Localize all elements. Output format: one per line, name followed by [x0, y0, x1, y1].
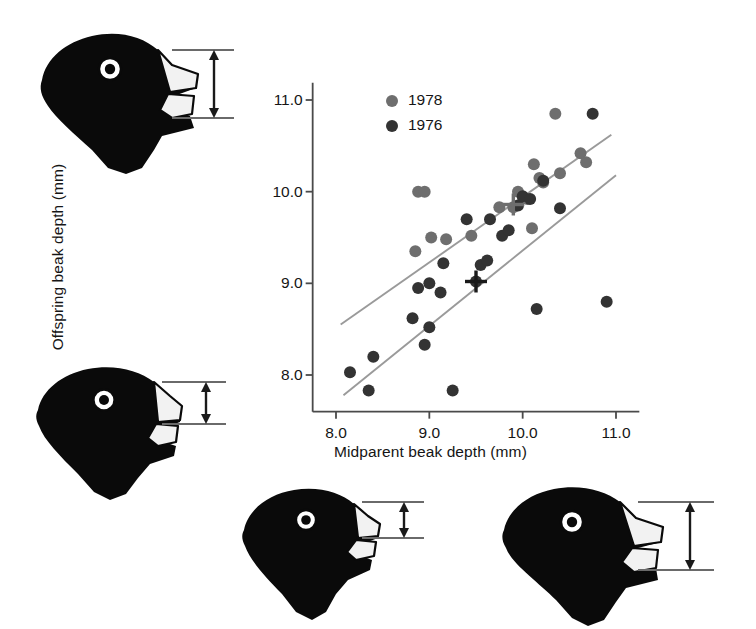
data-point-1976: [423, 321, 435, 333]
y-axis-tick-label: 11.0: [247, 91, 303, 109]
data-point-1976: [423, 277, 435, 289]
1978-regression: [341, 135, 612, 325]
data-point-1976: [537, 175, 549, 187]
y-axis-title: Offspring beak depth (mm): [49, 137, 67, 377]
data-point-1976: [484, 213, 496, 225]
data-point-1976: [412, 282, 424, 294]
data-point-1976: [407, 312, 419, 324]
data-point-1976: [503, 224, 515, 236]
data-point-1976: [461, 213, 473, 225]
legend-label-1976: 1976: [408, 116, 442, 134]
data-point-1976: [419, 339, 431, 351]
x-axis-tick-label: 11.0: [601, 424, 630, 442]
legend-marker-1978: [386, 95, 398, 107]
data-point-1976: [481, 254, 493, 266]
data-point-1978: [580, 156, 592, 168]
data-point-1976: [601, 296, 613, 308]
data-point-1978: [419, 186, 431, 198]
legend-marker-1976: [386, 120, 398, 132]
x-axis-tick-label: 8.0: [325, 424, 347, 442]
1976-mean: [465, 271, 487, 293]
data-point-1976: [524, 193, 536, 205]
data-point-1976: [367, 351, 379, 363]
data-point-1976: [437, 257, 449, 269]
data-point-1978: [549, 108, 561, 120]
figure-root: Midparent beak depth (mm) Offspring beak…: [0, 0, 756, 629]
data-point-1976: [435, 287, 447, 299]
y-axis-tick-label: 8.0: [247, 366, 303, 384]
legend-label-1978: 1978: [408, 91, 442, 109]
data-point-1978: [440, 233, 452, 245]
data-point-1978: [526, 222, 538, 234]
data-point-1976: [531, 303, 543, 315]
data-point-1978: [409, 245, 421, 257]
data-point-1978: [465, 230, 477, 242]
y-axis-tick-label: 10.0: [247, 183, 303, 201]
data-point-1976: [363, 385, 375, 397]
x-axis-tick-label: 10.0: [508, 424, 538, 442]
y-axis-tick-label: 9.0: [247, 274, 303, 292]
data-point-1976: [344, 366, 356, 378]
data-point-1978: [528, 158, 540, 170]
data-point-1976: [554, 202, 566, 214]
data-point-1976: [447, 385, 459, 397]
x-axis-title: Midparent beak depth (mm): [334, 443, 527, 461]
scatter-plot: [0, 0, 756, 629]
data-point-1976: [587, 108, 599, 120]
x-axis-tick-label: 9.0: [419, 424, 441, 442]
data-point-1978: [554, 167, 566, 179]
data-point-1978: [425, 232, 437, 244]
